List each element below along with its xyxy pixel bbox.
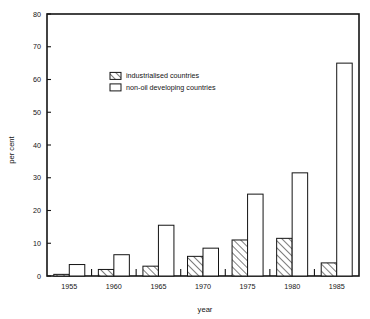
chart-legend: industrialised countriesnon-oil developi…	[110, 71, 216, 92]
y-tick-label: 40	[33, 141, 41, 150]
bar-industrialised-1970	[188, 256, 204, 276]
bar-series-group	[54, 63, 352, 276]
legend-swatch-hatched	[110, 72, 121, 79]
y-tick-label: 30	[33, 173, 41, 182]
bar-industrialised-1975	[232, 240, 248, 276]
bar-industrialised-1980	[277, 238, 293, 276]
chart-svg: 01020304050607080 1955196019651970197519…	[0, 0, 370, 319]
bar-non-oil-developing-1985	[337, 63, 353, 276]
x-tick-label: 1955	[61, 282, 77, 291]
bar-non-oil-developing-1960	[114, 255, 130, 276]
bar-non-oil-developing-1980	[292, 173, 308, 276]
plot-frame	[47, 14, 359, 276]
y-tick-label: 0	[37, 272, 41, 281]
x-tick-label: 1965	[150, 282, 166, 291]
y-tick-label: 20	[33, 206, 41, 215]
y-axis-title: per cent	[7, 135, 16, 163]
y-tick-label: 50	[33, 108, 41, 117]
bar-industrialised-1955	[54, 274, 70, 276]
bar-chart: 01020304050607080 1955196019651970197519…	[0, 0, 370, 319]
x-tick-label: 1960	[106, 282, 122, 291]
plot-border	[47, 14, 359, 276]
x-tick-label: 1970	[195, 282, 211, 291]
y-tick-label: 70	[33, 42, 41, 51]
bar-non-oil-developing-1970	[203, 248, 219, 276]
x-tick-label: 1975	[240, 282, 256, 291]
x-axis-title: year	[198, 305, 213, 314]
bar-industrialised-1960	[98, 269, 114, 276]
bar-non-oil-developing-1965	[158, 225, 174, 276]
bar-industrialised-1965	[143, 266, 159, 276]
bar-non-oil-developing-1975	[248, 194, 263, 276]
bar-non-oil-developing-1955	[69, 265, 85, 276]
legend-swatch-open	[110, 84, 121, 91]
x-tick-label: 1985	[329, 282, 345, 291]
legend-label-0: industrialised countries	[126, 71, 200, 80]
legend-label-1: non-oil developing countries	[126, 83, 216, 92]
bar-industrialised-1985	[321, 263, 337, 276]
y-tick-label: 60	[33, 75, 41, 84]
x-tick-label: 1980	[284, 282, 300, 291]
y-tick-label: 80	[33, 10, 41, 19]
y-axis-ticks: 01020304050607080	[33, 10, 51, 281]
y-tick-label: 10	[33, 239, 41, 248]
